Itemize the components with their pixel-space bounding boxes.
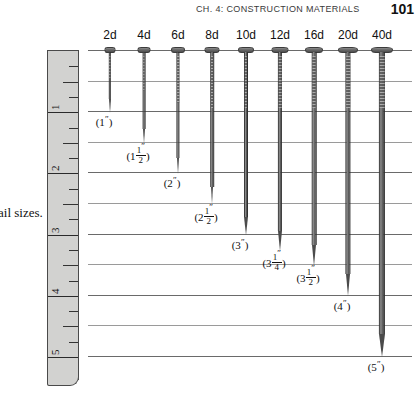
ruler-quarter-tick xyxy=(69,281,78,282)
ruler-quarter-tick xyxy=(69,97,78,98)
nail-length-label: (1″) xyxy=(91,114,117,128)
nail-knurl-texture xyxy=(177,56,179,103)
nail-length-label: (5″) xyxy=(363,359,389,373)
nail-length-label: (3″) xyxy=(227,237,253,251)
nail-knurl-texture xyxy=(279,56,282,108)
nail-figure xyxy=(130,47,158,145)
ruler-half-tick xyxy=(63,143,78,144)
nail-knurl-texture xyxy=(143,56,144,91)
ruler-quarter-tick xyxy=(69,189,78,190)
ruler-number: 4 xyxy=(49,289,61,295)
ruler-quarter-tick xyxy=(69,342,78,343)
nail-figure xyxy=(300,47,328,267)
ruler-half-tick xyxy=(63,204,78,205)
ruler-inch-tick xyxy=(47,112,78,113)
nail-figure xyxy=(96,47,124,114)
nail-length-label: (2″) xyxy=(159,175,185,189)
nail-knurl-texture xyxy=(245,56,247,108)
ruler-quarter-tick xyxy=(69,219,78,220)
ruler-number: 1 xyxy=(49,105,61,111)
nail-knurl-texture xyxy=(109,56,110,79)
ruler-quarter-tick xyxy=(69,311,78,312)
nail-tip xyxy=(346,274,350,296)
ruler-number: 3 xyxy=(49,228,61,234)
nail-tip xyxy=(244,217,248,235)
ruler-half-tick xyxy=(63,326,78,327)
nail-figure xyxy=(368,47,396,359)
vertical-inch-ruler: 12345 xyxy=(47,50,79,380)
ruler-inch-tick xyxy=(47,173,78,174)
grid-line xyxy=(88,264,412,265)
grid-line xyxy=(88,356,412,357)
grid-line xyxy=(88,295,412,296)
nail-figure xyxy=(164,47,192,175)
ruler-inch-tick xyxy=(47,296,78,297)
nail-knurl-texture xyxy=(380,56,385,108)
nail-figure xyxy=(198,47,226,206)
ruler-quarter-tick xyxy=(69,158,78,159)
ruler-inch-tick xyxy=(47,357,78,358)
ruler-quarter-tick xyxy=(69,128,78,129)
nail-length-label: (11″2) xyxy=(118,142,158,165)
nail-length-label: (21″2) xyxy=(186,203,226,226)
nail-figure xyxy=(232,47,260,237)
nail-figure xyxy=(266,47,294,252)
nail-length-label: (4″) xyxy=(329,298,355,312)
ruler-quarter-tick xyxy=(69,66,78,67)
nail-knurl-texture xyxy=(211,56,213,108)
ruler-half-tick xyxy=(63,82,78,83)
ruler-number: 5 xyxy=(49,350,61,356)
page-canvas: CH. 4: CONSTRUCTION MATERIALS 101 ail si… xyxy=(0,0,420,394)
ruler-foot xyxy=(47,372,79,386)
ruler-number: 2 xyxy=(49,166,61,172)
nail-tip xyxy=(177,158,179,174)
grid-line xyxy=(88,325,412,326)
nail-length-label: (31″2) xyxy=(288,264,328,287)
nail-figure xyxy=(334,47,362,298)
nail-size-label: 40d xyxy=(362,28,402,42)
nail-tip xyxy=(109,99,111,113)
nail-knurl-texture xyxy=(346,56,350,108)
nail-knurl-texture xyxy=(313,56,316,108)
nail-tip xyxy=(379,334,385,357)
ruler-inch-tick xyxy=(47,235,78,236)
ruler-quarter-tick xyxy=(69,250,78,251)
ruler-half-tick xyxy=(63,265,78,266)
